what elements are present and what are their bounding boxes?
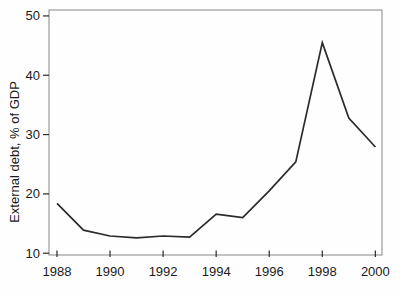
y-tick-label: 30 [26,127,40,142]
x-tick-label: 1988 [42,264,71,279]
plot-frame [49,10,382,255]
x-tick-label: 1998 [308,264,337,279]
chart-figure: External debt, % of GDP 1020304050198819… [0,0,400,294]
x-tick-label: 1992 [149,264,178,279]
y-tick-label: 20 [26,186,40,201]
y-axis-title: External debt, % of GDP [7,60,23,244]
x-tick-label: 1990 [96,264,125,279]
y-tick-label: 40 [26,68,40,83]
x-tick-label: 2000 [361,264,390,279]
x-tick-label: 1994 [202,264,231,279]
x-tick-label: 1996 [255,264,284,279]
line-chart: 10203040501988199019921994199619982000 [0,0,400,294]
y-tick-label: 10 [26,246,40,261]
external-debt-line [57,43,375,238]
y-tick-label: 50 [26,8,40,23]
